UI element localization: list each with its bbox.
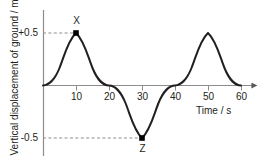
x-axis-title: Time / s <box>196 106 231 116</box>
x-tick-label-40: 40 <box>163 92 188 102</box>
chart-plot-area <box>0 0 268 163</box>
x-axis-ticks <box>77 86 242 91</box>
point-label-z: Z <box>130 144 155 154</box>
chart-figure: Vertical displacement of ground / m +0.5… <box>0 0 268 163</box>
y-value-label-positive-half: +0.5 <box>11 28 38 38</box>
x-tick-label-60: 60 <box>229 92 254 102</box>
x-tick-label-20: 20 <box>97 92 122 102</box>
point-marker-x <box>73 30 79 36</box>
x-tick-label-50: 50 <box>196 92 221 102</box>
y-value-label-negative-half: -0.5 <box>11 133 38 143</box>
point-marker-z <box>139 135 145 141</box>
x-tick-label-30: 30 <box>130 92 155 102</box>
point-label-x: X <box>64 16 89 26</box>
x-tick-label-10: 10 <box>64 92 89 102</box>
